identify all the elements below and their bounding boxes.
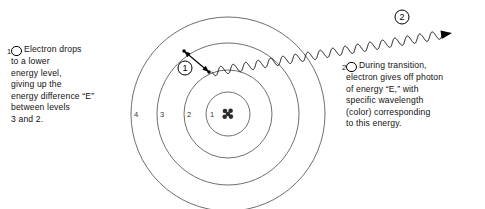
caption-right-text-6: to this energy. xyxy=(346,118,402,128)
transition-endpoint-dot-lower xyxy=(207,70,210,73)
caption-left-line-5: energy difference “E” xyxy=(11,91,94,103)
transition-endpoint-dot-upper xyxy=(182,49,185,52)
caption-left-text-3: energy level, xyxy=(11,68,62,78)
nucleon-5 xyxy=(226,112,231,117)
photon-arrowhead xyxy=(440,31,452,39)
caption-left-line-2: to a lower xyxy=(11,56,94,68)
caption-left-text-5: energy difference “E” xyxy=(11,91,94,101)
caption-left-line-6: between levels xyxy=(11,102,94,114)
caption-right-block: 2During transition,electron gives off ph… xyxy=(346,60,443,130)
caption-right-line-5: (color) corresponding xyxy=(346,107,443,119)
caption-right-text-5: (color) corresponding xyxy=(346,107,430,117)
caption-right-line-3: of energy “E,” with xyxy=(346,84,443,96)
caption-left-line-4: giving up the xyxy=(11,79,94,91)
bohr-atom-figure: 1234 1 2 1Electron dropsto a lowerenergy… xyxy=(0,0,485,209)
caption-right-line-4: specific wavelength xyxy=(346,95,443,107)
shell-label-4: 4 xyxy=(134,110,138,119)
caption-left-text-2: to a lower xyxy=(11,56,50,66)
caption-left-text-7: 3 and 2. xyxy=(11,114,43,124)
caption-left-line-1: 1Electron drops xyxy=(11,44,94,56)
shell-label-3: 3 xyxy=(160,110,164,119)
caption-left-text-6: between levels xyxy=(11,102,70,112)
caption-right-text-2: electron gives off photon xyxy=(346,72,443,82)
nucleus xyxy=(222,109,233,120)
caption-right-text-4: specific wavelength xyxy=(346,95,423,105)
caption-left-text-1: Electron drops xyxy=(24,44,82,54)
shell-label-2: 2 xyxy=(187,110,191,119)
shell-label-1: 1 xyxy=(210,110,214,119)
caption-left-line-3: energy level, xyxy=(11,68,94,80)
caption-right-line-2: electron gives off photon xyxy=(346,72,443,84)
caption-right-line-1: 2During transition, xyxy=(346,60,443,72)
caption-right-text-3: of energy “E,” with xyxy=(346,84,419,94)
caption-left-line-7: 3 and 2. xyxy=(11,114,94,126)
caption-left-block: 1Electron dropsto a lowerenergy level,gi… xyxy=(11,44,94,126)
caption-right-line-6: to this energy. xyxy=(346,118,443,130)
caption-left-text-4: giving up the xyxy=(11,79,62,89)
caption-right-marker: 2 xyxy=(346,62,357,73)
caption-left-marker: 1 xyxy=(11,46,22,57)
callout-badge-1: 1 xyxy=(178,61,193,76)
callout-badge-2: 2 xyxy=(395,10,410,25)
caption-right-text-1: During transition, xyxy=(359,60,427,70)
